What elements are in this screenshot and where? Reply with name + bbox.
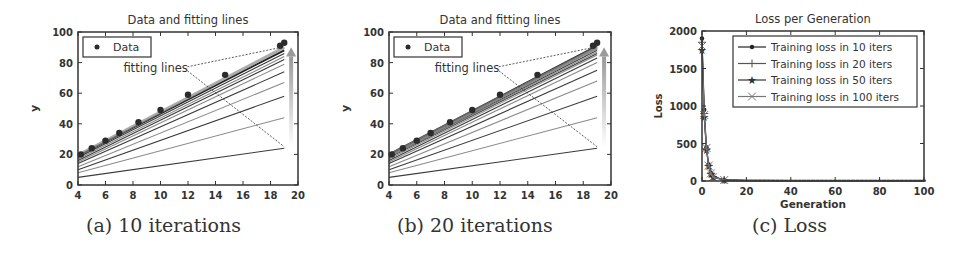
arrow-shaft — [602, 56, 606, 146]
legend-marker-icon — [406, 45, 411, 50]
fitting-line — [389, 148, 597, 177]
data-point — [281, 40, 287, 46]
caption-b: (b) 20 iterations — [397, 214, 553, 236]
y-tick-label: 80 — [59, 58, 73, 69]
x-tick-label: 18 — [264, 190, 278, 201]
data-point — [427, 130, 433, 136]
fitting-line — [78, 72, 284, 164]
x-tick-label: 18 — [576, 190, 590, 201]
chart-a: Data and fitting linesyfitting lines4681… — [0, 0, 320, 215]
legend-label: Training loss in 50 iters — [770, 74, 892, 86]
x-tick-label: 6 — [102, 190, 109, 201]
x-tick-label: 10 — [465, 190, 479, 201]
x-tick-label: 8 — [130, 190, 137, 201]
x-tick-label: 4 — [75, 190, 82, 201]
legend-label: Data — [113, 41, 139, 54]
svg-text:★: ★ — [747, 74, 757, 87]
x-tick-label: 0 — [699, 186, 706, 197]
x-tick-label: 12 — [181, 190, 195, 201]
y-tick-label: 0 — [66, 180, 73, 191]
y-tick-label: 500 — [676, 139, 697, 150]
fitting-line — [78, 64, 284, 162]
fitting-line — [389, 81, 597, 167]
annotation-fitting-lines: fitting lines — [435, 61, 499, 75]
legend-label: Training loss in 100 iters — [770, 91, 899, 103]
data-point — [414, 137, 420, 143]
data-point — [157, 107, 163, 113]
x-tick-label: 16 — [549, 190, 563, 201]
x-tick-label: 6 — [413, 190, 420, 201]
x-tick-label: 8 — [441, 190, 448, 201]
chart-c: Loss per GenerationLossGeneration★★★★★★★… — [640, 0, 961, 215]
legend-label: Training loss in 10 iters — [770, 41, 892, 53]
x-tick-label: 16 — [236, 190, 250, 201]
y-tick-label: 20 — [59, 149, 73, 160]
y-tick-label: 0 — [377, 180, 384, 191]
legend-marker-icon — [750, 45, 754, 49]
chart-title: Data and fitting lines — [128, 13, 249, 27]
y-tick-label: 100 — [363, 27, 384, 38]
y-tick-label: 60 — [59, 88, 73, 99]
arrow-up-icon — [286, 47, 296, 56]
y-axis-label: Loss — [653, 93, 664, 118]
legend-label: Data — [424, 41, 450, 54]
data-point — [135, 119, 141, 125]
x-tick-label: 4 — [386, 190, 393, 201]
chart-b: Data and fitting linesyfitting lines4681… — [311, 0, 631, 215]
y-tick-label: 80 — [370, 58, 384, 69]
data-point — [89, 145, 95, 151]
fitting-line — [78, 82, 284, 166]
data-point — [185, 92, 191, 98]
x-tick-label: 100 — [914, 186, 935, 197]
x-axis-label: Generation — [780, 198, 846, 210]
y-tick-label: 20 — [370, 149, 384, 160]
data-point — [497, 92, 503, 98]
data-point — [102, 137, 108, 143]
figure-c: Loss per GenerationLossGeneration★★★★★★★… — [640, 0, 961, 260]
arrow-up-icon — [599, 47, 609, 56]
data-point — [534, 72, 540, 78]
y-tick-label: 40 — [370, 119, 384, 130]
data-point — [469, 107, 475, 113]
x-tick-label: 40 — [784, 186, 798, 197]
data-point — [222, 72, 228, 78]
x-tick-label: 10 — [154, 190, 168, 201]
fitting-line — [78, 148, 284, 177]
data-point — [116, 130, 122, 136]
y-tick-label: 100 — [52, 27, 73, 38]
arrow-shaft — [289, 56, 293, 146]
fitting-line — [389, 63, 597, 162]
data-point — [447, 119, 453, 125]
annotation-fitting-lines: fitting lines — [123, 61, 187, 75]
x-tick-label: 12 — [493, 190, 507, 201]
legend-marker-icon: ★ — [747, 74, 757, 87]
x-tick-label: 20 — [291, 190, 305, 201]
y-tick-label: 60 — [370, 88, 384, 99]
y-tick-label: 2000 — [669, 26, 697, 37]
figure-b: Data and fitting linesyfitting lines4681… — [311, 0, 631, 260]
y-tick-label: 1000 — [669, 101, 697, 112]
chart-title: Loss per Generation — [755, 12, 871, 26]
y-tick-label: 0 — [690, 176, 697, 187]
data-point — [594, 40, 600, 46]
y-axis-label: y — [339, 105, 352, 112]
y-axis-label: y — [28, 105, 41, 112]
y-tick-label: 40 — [59, 119, 73, 130]
figure-a: Data and fitting linesyfitting lines4681… — [0, 0, 320, 260]
x-tick-label: 80 — [873, 186, 887, 197]
x-tick-label: 14 — [209, 190, 223, 201]
legend-label: Training loss in 20 iters — [770, 58, 892, 70]
x-tick-label: 20 — [739, 186, 753, 197]
data-point — [400, 145, 406, 151]
legend-marker-icon — [95, 45, 100, 50]
fitting-line — [389, 70, 597, 163]
x-tick-label: 20 — [604, 190, 618, 201]
chart-title: Data and fitting lines — [440, 13, 561, 27]
caption-a: (a) 10 iterations — [86, 214, 241, 236]
caption-c: (c) Loss — [752, 214, 827, 236]
y-tick-label: 1500 — [669, 64, 697, 75]
x-tick-label: 60 — [828, 186, 842, 197]
x-tick-label: 14 — [521, 190, 535, 201]
